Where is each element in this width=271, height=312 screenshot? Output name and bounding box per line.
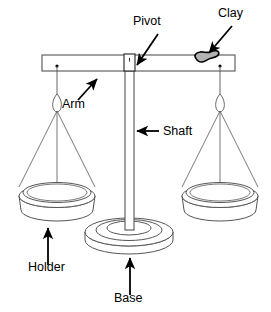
- right-hanger-loop: [216, 94, 225, 112]
- label-clay: Clay: [218, 6, 244, 20]
- shaft-column: [125, 55, 134, 230]
- balance-scale-diagram: Pivot Clay Arm Shaft Holder Base: [0, 0, 271, 312]
- figure-canvas: Pivot Clay Arm Shaft Holder Base: [0, 0, 271, 312]
- clay-arrow: [209, 26, 232, 53]
- right-cord-outer-left: [182, 111, 220, 187]
- label-base: Base: [114, 291, 143, 305]
- left-cord-outer-left: [19, 111, 57, 187]
- right-pan-inner-rim: [186, 183, 254, 203]
- left-pan-inner-rim: [23, 183, 91, 203]
- pivot-block: [124, 54, 135, 71]
- left-cord-outer-right: [57, 111, 95, 187]
- right-cord-outer-right: [220, 111, 258, 187]
- shaft-group: [125, 55, 134, 230]
- label-shaft: Shaft: [163, 124, 193, 138]
- label-pivot: Pivot: [133, 14, 161, 28]
- label-holder: Holder: [28, 260, 65, 274]
- left-hanger-loop: [53, 94, 62, 112]
- right-holder-group: [182, 66, 258, 221]
- left-holder-group: [19, 66, 95, 221]
- label-arm: Arm: [62, 97, 85, 111]
